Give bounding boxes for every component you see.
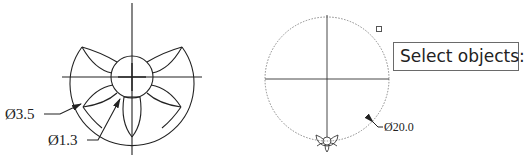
petal-upper-right	[152, 47, 182, 73]
label-outer-diameter: Ø3.5	[5, 106, 35, 122]
petal-bottom-b	[132, 97, 141, 137]
label-inner-diameter: Ø1.3	[48, 132, 78, 148]
right-figure	[265, 15, 389, 152]
petal-bottom-a	[123, 97, 132, 137]
drawing-canvas[interactable]: Ø3.5 Ø1.3 Ø20.0	[0, 0, 526, 163]
pickbox-cursor	[376, 26, 382, 32]
label-circle-diameter: Ø20.0	[384, 120, 414, 134]
prompt-text: Select objects:	[400, 46, 525, 66]
petal-upper-left	[82, 47, 112, 73]
command-prompt-tooltip: Select objects:	[393, 42, 519, 71]
mini-bowtie	[316, 135, 338, 152]
leader-circle	[373, 122, 383, 127]
